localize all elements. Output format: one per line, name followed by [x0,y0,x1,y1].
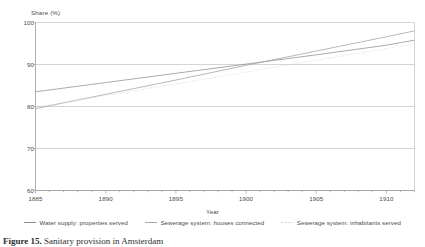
figure-caption-text: Sanitary provision in Amsterdam [44,236,163,246]
legend-item[interactable]: Sewerage system: houses connected [145,219,264,226]
chart-legend: Water supply: properties servedSewerage … [0,219,425,235]
series-line-2 [36,44,415,108]
legend-item-label: Sewerage system: houses connected [160,219,264,226]
gridlines [36,65,415,191]
series-line-1 [36,31,415,109]
line-dotted-icon [281,220,293,225]
legend-item[interactable]: Water supply: properties served [24,219,128,226]
figure-caption: Figure 15. Sanitary provision in Amsterd… [3,236,423,247]
axis-ticks [33,23,415,194]
line-solid-dark-icon [24,220,36,225]
legend-item-label: Water supply: properties served [40,219,128,226]
x-axis-title: Year [0,208,425,215]
line-solid-mid-icon [145,220,157,225]
series-line-0 [36,40,415,92]
plot-canvas [0,0,425,218]
chart-area: Share (%) 10090807060 188518901895190019… [0,0,425,218]
legend-item-label: Sewerage system: inhabitants served [297,219,401,226]
figure: Share (%) 10090807060 188518901895190019… [0,0,425,247]
legend-item[interactable]: Sewerage system: inhabitants served [281,219,401,226]
series-lines [36,31,415,109]
figure-caption-number: Figure 15. [3,236,42,246]
